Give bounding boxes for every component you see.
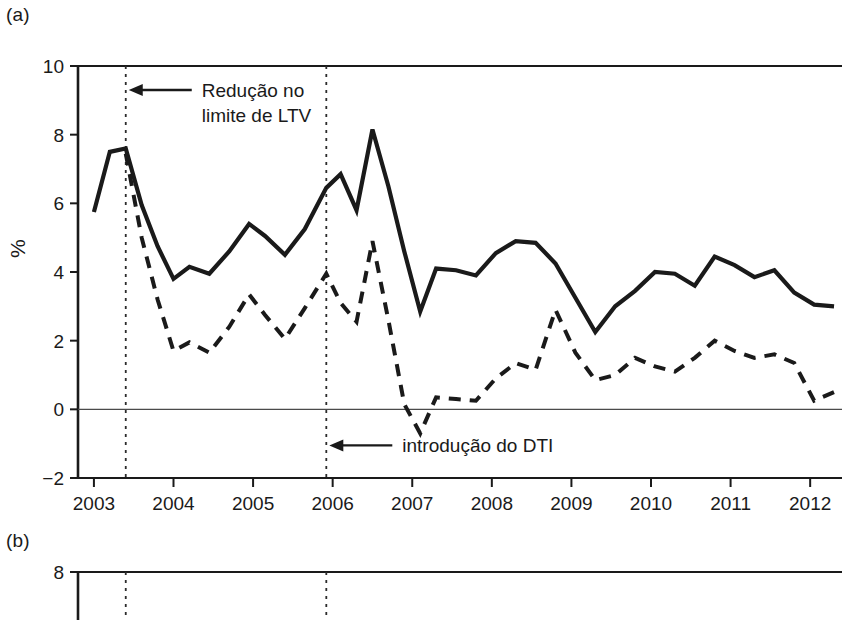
x-tick-label: 2007 (391, 493, 433, 514)
ltv-annotation-line1: Redução no (202, 80, 304, 101)
y-tick-label: 6 (53, 193, 64, 214)
chart-plot-area-b: 8 (0, 520, 842, 620)
x-tick-label: 2010 (630, 493, 672, 514)
ltv-annotation-line2: limite de LTV (202, 105, 312, 126)
series-dashed-series (126, 154, 834, 434)
x-tick-label: 2009 (550, 493, 592, 514)
y-tick-label-b: 8 (53, 562, 64, 583)
x-tick-label: 2012 (789, 493, 831, 514)
x-tick-label: 2008 (471, 493, 513, 514)
panel-b-label: (b) (6, 530, 30, 552)
panel-b: (b) 8 (0, 520, 842, 620)
chart-plot-area-a: −202468102003200420052006200720082009201… (0, 0, 842, 520)
series-solid-series (94, 130, 834, 333)
x-tick-label: 2005 (232, 493, 274, 514)
y-tick-label: 8 (53, 125, 64, 146)
y-tick-label: −2 (42, 468, 64, 489)
y-tick-label: 4 (53, 262, 64, 283)
panel-a: (a) % −202468102003200420052006200720082… (0, 0, 842, 520)
y-tick-label: 10 (43, 56, 64, 77)
panel-a-label: (a) (6, 4, 30, 26)
ltv-arrow-head (129, 84, 143, 96)
dti-arrow-head (329, 439, 343, 451)
y-axis-label: % (6, 239, 30, 258)
y-tick-label: 0 (53, 399, 64, 420)
y-tick-label: 2 (53, 331, 64, 352)
x-tick-label: 2006 (312, 493, 354, 514)
x-tick-label: 2011 (710, 493, 751, 514)
x-tick-label: 2004 (152, 493, 195, 514)
x-tick-label: 2003 (73, 493, 115, 514)
dti-annotation-line1: introdução do DTI (402, 435, 553, 456)
